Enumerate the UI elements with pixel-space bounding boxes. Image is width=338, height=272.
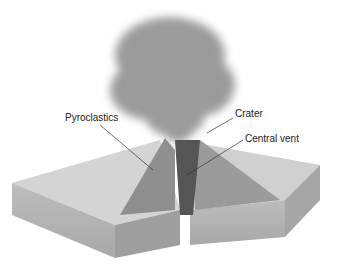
label-pyroclastics: Pyroclastics (65, 112, 118, 123)
label-central-vent: Central vent (245, 133, 299, 144)
ash-cloud (110, 17, 235, 142)
label-crater: Crater (235, 108, 263, 119)
